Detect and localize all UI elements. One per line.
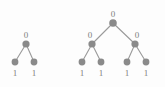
- tree-node-l-leaf-1: [12, 59, 19, 66]
- node-label-r-leaf-4: 1: [140, 69, 152, 78]
- tree-node-r-leaf-1: [79, 59, 86, 66]
- tree-node-r-mid-l: [88, 40, 95, 47]
- node-label-l-leaf-2: 1: [28, 69, 40, 78]
- tree-nodes-right-tree: [79, 19, 150, 65]
- binary-tree-figure: 0110001111: [0, 0, 165, 87]
- node-label-r-leaf-2: 1: [95, 69, 107, 78]
- tree-node-r-root: [109, 19, 117, 27]
- tree-node-r-leaf-3: [124, 59, 131, 66]
- tree-node-r-mid-r: [131, 40, 138, 47]
- node-label-r-mid-r: 0: [131, 31, 143, 40]
- node-label-r-leaf-1: 1: [76, 69, 88, 78]
- tree-node-l-root: [22, 40, 29, 47]
- tree-node-r-leaf-2: [98, 59, 105, 66]
- node-label-r-root: 0: [107, 10, 119, 19]
- edge-layer: [15, 23, 146, 62]
- node-label-l-leaf-1: 1: [9, 69, 21, 78]
- tree-node-l-leaf-2: [31, 59, 38, 66]
- tree-nodes-left-tree: [12, 40, 38, 65]
- tree-node-r-leaf-4: [143, 59, 150, 66]
- node-label-r-mid-l: 0: [84, 31, 96, 40]
- node-label-l-root: 0: [20, 31, 32, 40]
- node-label-r-leaf-3: 1: [121, 69, 133, 78]
